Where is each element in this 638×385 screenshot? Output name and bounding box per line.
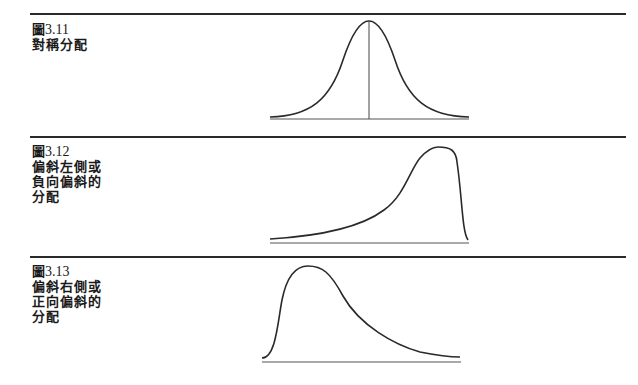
negative-skew-curve <box>270 147 468 240</box>
symmetric-distribution-figure <box>270 21 469 119</box>
positive-skew-figure <box>262 266 461 362</box>
positive-skew-curve <box>262 266 460 358</box>
negative-skew-figure <box>270 147 469 243</box>
distribution-figures <box>0 0 638 385</box>
